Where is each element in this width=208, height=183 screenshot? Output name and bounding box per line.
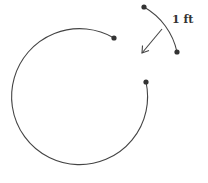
small-arc-start-dot: [141, 4, 146, 9]
large-arc: [12, 29, 148, 165]
arrow-icon: [142, 29, 162, 53]
length-label: 1 ft: [172, 13, 193, 26]
large-arc-start-dot: [111, 35, 116, 40]
circle-segment-diagram: [0, 0, 208, 183]
small-arc-end-dot: [174, 49, 179, 54]
large-arc-end-dot: [143, 79, 148, 84]
